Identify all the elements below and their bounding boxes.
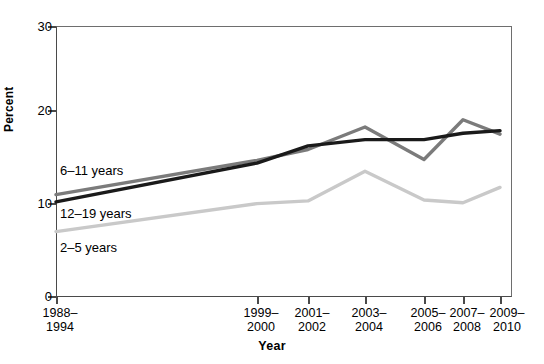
x-tick-label-0: 1988– 1994 [43,306,78,334]
series-label-12-19-years: 12–19 years [60,206,132,221]
y-tick-label-30: 30 [0,19,52,34]
y-tick-label-0: 0 [0,289,52,304]
x-tick-label-6: 2009– 2010 [490,306,525,334]
x-tick-label-2: 2001– 2002 [295,306,330,334]
x-tick-mark-5 [463,297,465,304]
series-label-6-11-years: 6–11 years [60,163,123,178]
line-chart: 30 20 10 0 Percent 1988– 1994 1999– 2000… [0,0,544,364]
series-label-2-5-years: 2–5 years [60,240,117,255]
x-tick-label-5: 2007– 2008 [450,306,485,334]
x-tick-label-4: 2005– 2006 [411,306,446,334]
x-tick-label-1: 1999– 2000 [244,306,279,334]
x-tick-mark-2 [308,297,310,304]
x-tick-mark-3 [365,297,367,304]
x-axis-title: Year [0,339,544,353]
y-tick-label-10: 10 [0,196,52,211]
x-tick-mark-0 [56,297,58,304]
x-tick-label-3: 2003– 2004 [352,306,387,334]
x-tick-mark-6 [500,297,502,304]
y-axis-title: Percent [2,87,16,132]
plot-area [56,26,512,297]
x-tick-mark-4 [424,297,426,304]
x-tick-mark-1 [257,297,259,304]
